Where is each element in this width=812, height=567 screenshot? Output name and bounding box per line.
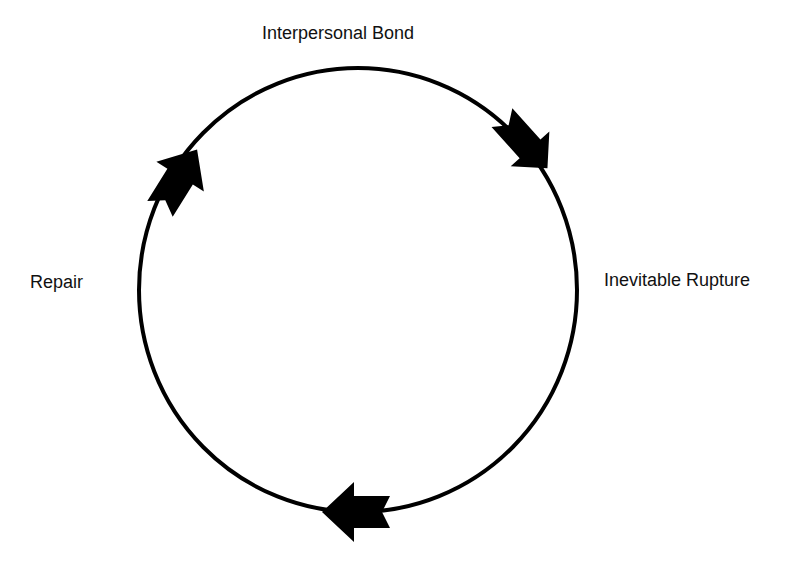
- cycle-diagram: Interpersonal Bond Inevitable Rupture Re…: [0, 0, 812, 567]
- node-label-repair: Repair: [30, 272, 83, 293]
- node-label-interpersonal-bond: Interpersonal Bond: [262, 23, 414, 44]
- arrow-bond-to-rupture-icon: [483, 100, 567, 185]
- arrow-rupture-to-repair-icon: [322, 482, 390, 542]
- node-label-inevitable-rupture: Inevitable Rupture: [604, 270, 750, 291]
- arrow-repair-to-bond-icon: [136, 135, 221, 224]
